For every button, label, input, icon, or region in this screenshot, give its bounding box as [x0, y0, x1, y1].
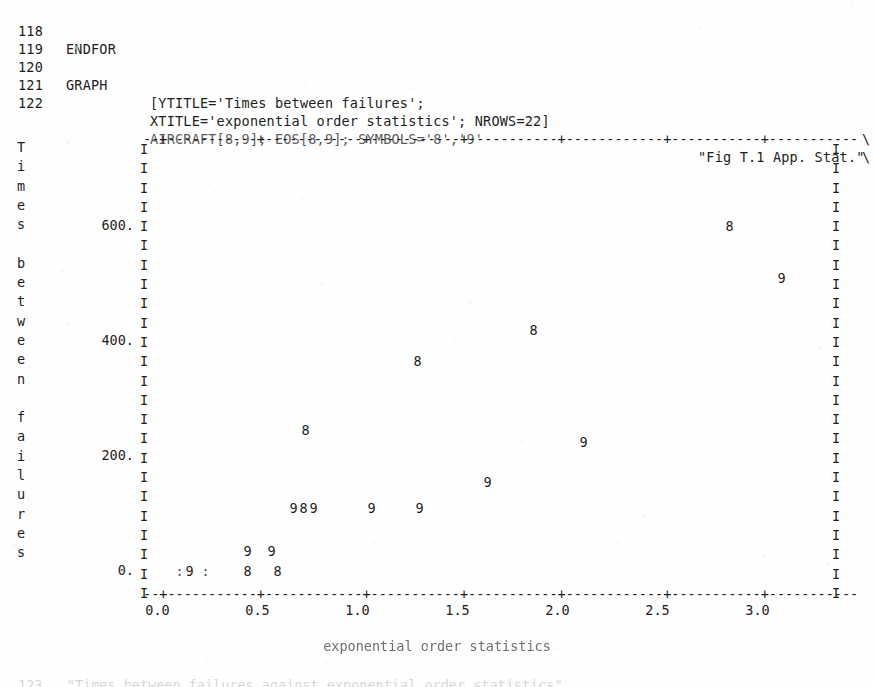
page-bottom-bleed: 123 "Times between failures against expo…	[18, 676, 858, 687]
code-line: 121 XTITLE='exponential order statistics…	[0, 58, 874, 76]
data-point-symbol-8: 8	[300, 423, 312, 437]
data-point-symbol-9: 9	[242, 544, 254, 558]
data-point-symbol-9: 9	[776, 271, 788, 285]
data-point-symbol-9: 9	[288, 501, 300, 515]
code-body: [YTITLE='Times between failures';	[150, 94, 425, 112]
character-plot: Times between failures 600. 400. 200. 0.…	[0, 120, 874, 687]
x-axis-tick-label: 1.0	[336, 602, 380, 618]
code-listing: 118 ENDFOR 119 120 GRAPH [YTITLE='Times …	[0, 0, 874, 110]
code-line: 120 GRAPH [YTITLE='Times between failure…	[0, 40, 874, 58]
data-point-symbol-9: 9	[482, 475, 494, 489]
data-point-symbol-9: 9	[578, 435, 590, 449]
data-point-symbol-9: 9	[414, 501, 426, 515]
data-point-symbol-8: 8	[242, 564, 254, 578]
code-line: 119	[0, 22, 874, 40]
data-point-symbol-8: 8	[272, 564, 284, 578]
data-point-symbol-overplot: :	[174, 564, 186, 578]
data-point-symbol-8: 8	[412, 354, 424, 368]
code-line: 118 ENDFOR	[0, 4, 874, 22]
x-axis-title: exponential order statistics	[0, 638, 874, 654]
data-point-symbol-8: 8	[724, 219, 736, 233]
data-point-symbol-overplot: :	[200, 564, 212, 578]
x-axis-tick-label: 2.5	[636, 602, 680, 618]
scanned-page: 118 ENDFOR 119 120 GRAPH [YTITLE='Times …	[0, 0, 874, 687]
x-axis-tick-label: 0.5	[236, 602, 280, 618]
code-line: 122 AIRCRAFT[8,9]; EOS[8,9]; SYMBOLS='8'…	[0, 76, 874, 94]
x-axis-tick-label: 1.5	[436, 602, 480, 618]
code-line-number: 122	[18, 94, 58, 112]
x-axis-tick-label: 2.0	[536, 602, 580, 618]
x-axis-tick-labels: 0.00.51.01.52.02.53.0	[0, 602, 874, 620]
data-point-symbol-9: 9	[266, 544, 278, 558]
x-axis-tick-label: 3.0	[736, 602, 780, 618]
data-point-symbol-9: 9	[366, 501, 378, 515]
data-point-symbol-8: 8	[528, 323, 540, 337]
data-point-symbol-9: 9	[308, 501, 320, 515]
x-axis-tick-label: 0.0	[136, 602, 180, 618]
